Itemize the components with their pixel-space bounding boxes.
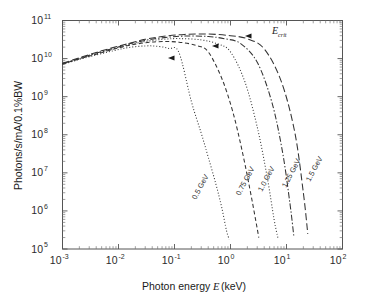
curve-label-1-5-gev: 1.5 GeV (304, 155, 325, 183)
svg-text:6: 6 (44, 203, 48, 210)
svg-text:-2: -2 (119, 253, 125, 260)
chart-svg: 10510610710810910101011 10-310-210-11001… (0, 0, 369, 299)
svg-text:10: 10 (218, 254, 230, 266)
svg-text:10: 10 (31, 90, 43, 102)
curve-label-1-25-gev: 1.25 GeV (280, 157, 303, 189)
curve-labels: 0.5 GeV0.75 GeV1.0 GeV1.25 GeV1.5 GeV (190, 155, 325, 201)
svg-text:-3: -3 (63, 253, 69, 260)
svg-text:2: 2 (343, 253, 347, 260)
x-tick-label: 102 (330, 253, 347, 266)
curve-label-0-75-gev: 0.75 GeV (234, 165, 257, 197)
svg-text:7: 7 (44, 165, 48, 172)
y-tick-label: 107 (31, 165, 48, 179)
svg-text:-1: -1 (175, 253, 181, 260)
y-tick-label: 106 (31, 203, 48, 217)
svg-text:5: 5 (44, 241, 48, 248)
e-crit-annotation: Ecrit (271, 25, 287, 38)
svg-text:10: 10 (31, 243, 43, 255)
svg-text:0: 0 (231, 253, 235, 260)
svg-text:10: 10 (31, 128, 43, 140)
curve-arrow-markers (168, 33, 252, 60)
svg-text:10: 10 (44, 51, 52, 58)
svg-text:10: 10 (106, 254, 118, 266)
y-tick-label: 105 (31, 241, 48, 255)
curve-1-5-gev (63, 34, 308, 234)
x-tick-label: 100 (218, 253, 235, 266)
x-axis-title-unit: (keV) (221, 280, 246, 292)
y-axis-tick-labels: 10510610710810910101011 (31, 13, 52, 255)
curve-label-0-5-gev: 0.5 GeV (190, 173, 211, 201)
curve-0-5-gev (63, 46, 230, 239)
curve-1-0-gev (63, 39, 278, 238)
arrow-marker (245, 33, 252, 38)
y-tick-label: 109 (31, 89, 48, 103)
x-axis-ticks (63, 21, 343, 250)
x-axis-title-pre: Photon energy (142, 280, 211, 292)
svg-text:10: 10 (274, 254, 286, 266)
svg-text:1: 1 (287, 253, 291, 260)
y-axis-title: Photons/s/mA/0.1%BW (12, 81, 24, 190)
x-tick-label: 10-2 (106, 253, 125, 266)
arrow-marker (168, 55, 175, 60)
svg-text:10: 10 (31, 204, 43, 216)
svg-text:8: 8 (44, 127, 48, 134)
curve-0-75-gev (63, 42, 259, 238)
svg-text:10: 10 (31, 52, 43, 64)
svg-text:10: 10 (31, 14, 43, 26)
x-tick-label: 10-1 (162, 253, 181, 266)
svg-text:10: 10 (31, 166, 43, 178)
data-curves (63, 34, 308, 239)
synchrotron-flux-chart: 10510610710810910101011 10-310-210-11001… (0, 0, 369, 299)
y-axis-ticks (63, 21, 343, 250)
svg-text:11: 11 (44, 13, 51, 20)
plot-frame (63, 21, 343, 250)
svg-text:10: 10 (162, 254, 174, 266)
x-tick-label: 10-3 (50, 253, 69, 266)
x-axis-title: Photon energy E (keV) (142, 280, 246, 292)
svg-text:9: 9 (44, 89, 48, 96)
curve-1-25-gev (63, 36, 294, 236)
curve-label-1-0-gev: 1.0 GeV (256, 165, 277, 193)
x-tick-label: 101 (274, 253, 291, 266)
svg-text:crit: crit (278, 31, 287, 38)
y-tick-label: 1011 (31, 13, 51, 27)
y-tick-label: 108 (31, 127, 48, 141)
svg-text:10: 10 (330, 254, 342, 266)
svg-text:10: 10 (50, 254, 62, 266)
arrow-marker (212, 43, 219, 48)
y-tick-label: 1010 (31, 51, 52, 64)
x-axis-title-symbol: E (212, 281, 220, 292)
x-axis-tick-labels: 10-310-210-1100101102 (50, 253, 347, 266)
chart-annotations: Ecrit (271, 25, 287, 38)
